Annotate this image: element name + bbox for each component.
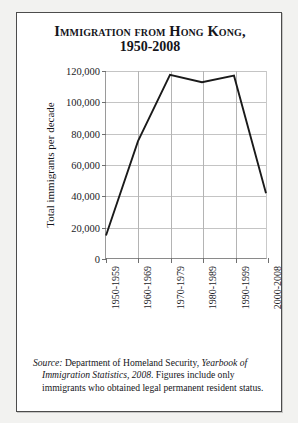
figure-container: Immigration from Hong Kong, 1950-2008 To… xyxy=(0,0,298,423)
immigration-line xyxy=(106,75,266,236)
x-tick-label: 2000-2008 xyxy=(272,266,283,309)
source-note: Source: Department of Homeland Security,… xyxy=(33,357,278,394)
x-tick-mark xyxy=(236,258,237,263)
x-tick-label: 1960-1969 xyxy=(142,266,153,309)
data-series-line xyxy=(106,71,266,258)
x-tick-mark xyxy=(268,258,269,263)
x-tick-mark xyxy=(138,258,139,263)
chart-panel: Immigration from Hong Kong, 1950-2008 To… xyxy=(16,12,282,412)
source-agency: Department of Homeland Security, xyxy=(62,357,201,368)
y-tick-label: 100,000 xyxy=(66,97,100,108)
y-tick-label: 0 xyxy=(95,254,100,265)
plot-area: 020,00040,00060,00080,000100,000120,000 … xyxy=(105,71,267,259)
y-tick-label: 20,000 xyxy=(71,222,100,233)
x-tick-mark xyxy=(203,258,204,263)
y-tick-label: 120,000 xyxy=(66,66,100,77)
x-tick-label: 1950-1959 xyxy=(110,266,121,309)
y-tick-label: 60,000 xyxy=(71,160,100,171)
source-label: Source: xyxy=(33,357,62,368)
x-tick-mark xyxy=(106,258,107,263)
x-tick-label: 1990-1999 xyxy=(240,266,251,309)
x-tick-label: 1970-1979 xyxy=(175,266,186,309)
x-tick-label: 1980-1989 xyxy=(207,266,218,309)
x-tick-mark xyxy=(171,258,172,263)
y-tick-label: 40,000 xyxy=(71,191,100,202)
chart-title-line-2: 1950-2008 xyxy=(17,39,283,55)
y-axis-title: Total immigrants per decade xyxy=(43,71,57,259)
y-tick-label: 80,000 xyxy=(71,128,100,139)
chart-title-line-1: Immigration from Hong Kong, xyxy=(54,23,245,39)
chart-title: Immigration from Hong Kong, 1950-2008 xyxy=(17,23,283,55)
